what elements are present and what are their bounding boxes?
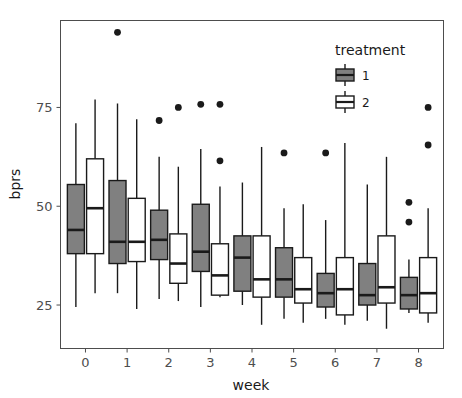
outlier-point bbox=[156, 117, 163, 124]
y-tick-label: 75 bbox=[36, 100, 53, 115]
box-iqr bbox=[87, 159, 104, 254]
outlier-point bbox=[281, 149, 288, 156]
x-tick-label: 7 bbox=[373, 355, 381, 370]
outlier-point bbox=[322, 149, 329, 156]
box-iqr bbox=[400, 277, 417, 309]
outlier-point bbox=[425, 104, 432, 111]
box-iqr bbox=[253, 236, 270, 297]
box-iqr bbox=[67, 185, 84, 254]
outlier-point bbox=[197, 101, 204, 108]
x-tick-label: 8 bbox=[414, 355, 422, 370]
outlier-point bbox=[175, 104, 182, 111]
x-tick-label: 6 bbox=[331, 355, 339, 370]
outlier-point bbox=[406, 219, 413, 226]
x-axis-title: week bbox=[233, 377, 271, 393]
box-iqr bbox=[336, 258, 353, 315]
outlier-point bbox=[114, 29, 121, 36]
x-tick-label: 1 bbox=[123, 355, 131, 370]
box-iqr bbox=[128, 198, 145, 261]
outlier-point bbox=[425, 142, 432, 149]
box-iqr bbox=[359, 264, 376, 305]
box-iqr bbox=[234, 236, 251, 291]
bprs-week-boxplot: 255075 012345678 treatment12 bprs week bbox=[0, 0, 462, 398]
legend-item-label: 1 bbox=[362, 69, 370, 83]
box-iqr bbox=[420, 258, 437, 313]
box-iqr bbox=[211, 244, 228, 295]
y-tick-label: 50 bbox=[36, 199, 53, 214]
box-iqr bbox=[317, 273, 334, 307]
y-axis-title: bprs bbox=[7, 169, 23, 200]
legend-title: treatment bbox=[335, 42, 406, 58]
chart-root: 255075 012345678 treatment12 bprs week bbox=[0, 0, 462, 398]
x-tick-label: 3 bbox=[206, 355, 214, 370]
x-tick-label: 0 bbox=[81, 355, 89, 370]
y-tick-label: 25 bbox=[36, 298, 53, 313]
box-iqr bbox=[151, 210, 168, 259]
box-iqr bbox=[276, 248, 293, 297]
legend-item-label: 2 bbox=[362, 96, 370, 110]
x-tick-label: 4 bbox=[248, 355, 256, 370]
box-iqr bbox=[192, 204, 209, 271]
x-tick-label: 2 bbox=[165, 355, 173, 370]
box-iqr bbox=[295, 258, 312, 303]
box-iqr bbox=[170, 234, 187, 283]
box-iqr bbox=[109, 181, 126, 264]
outlier-point bbox=[217, 157, 224, 164]
box-iqr bbox=[378, 236, 395, 303]
x-tick-label: 5 bbox=[289, 355, 297, 370]
outlier-point bbox=[406, 199, 413, 206]
outlier-point bbox=[217, 101, 224, 108]
